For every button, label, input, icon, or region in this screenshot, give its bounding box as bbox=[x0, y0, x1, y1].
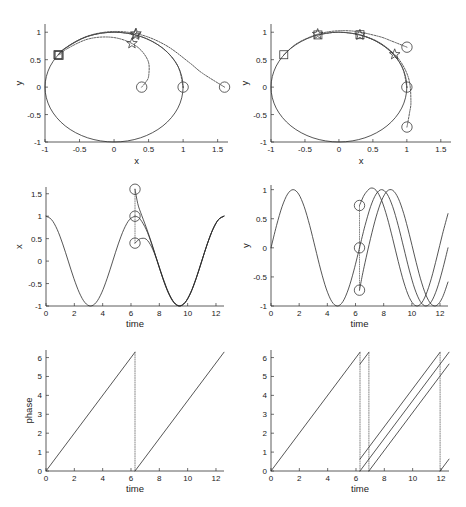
y-axis-label: x bbox=[13, 244, 24, 249]
y-tick-label: 0 bbox=[37, 83, 42, 92]
y-tick-label: 1 bbox=[37, 28, 42, 37]
y-tick-label: -0.5 bbox=[27, 111, 41, 120]
x-tick-label: 6 bbox=[353, 309, 358, 318]
x-tick-label: 2 bbox=[72, 309, 77, 318]
y-tick-label: 0.5 bbox=[31, 235, 43, 244]
y-axis-label: y bbox=[13, 80, 24, 85]
y-tick-label: 3 bbox=[263, 410, 268, 419]
y-tick-label: 0.5 bbox=[30, 56, 42, 65]
y-tick-label: 1.5 bbox=[31, 190, 43, 199]
y-tick-label: 4 bbox=[263, 391, 268, 400]
x-axis-label: time bbox=[351, 483, 369, 494]
x-tick-label: 8 bbox=[157, 309, 162, 318]
y-tick-label: 1 bbox=[263, 448, 268, 457]
x-tick-label: 0 bbox=[44, 309, 49, 318]
x-tick-label: 4 bbox=[100, 474, 105, 483]
x-tick-label: 8 bbox=[382, 474, 387, 483]
x-tick-label: 8 bbox=[157, 474, 162, 483]
x-tick-label: 10 bbox=[407, 309, 416, 318]
x-tick-label: 1.5 bbox=[435, 145, 447, 154]
x-tick-label: 12 bbox=[212, 309, 221, 318]
y-axis-label: y bbox=[240, 243, 251, 248]
x-tick-label: 12 bbox=[436, 309, 445, 318]
x-tick-label: 6 bbox=[129, 474, 134, 483]
y-tick-label: 0 bbox=[263, 83, 268, 92]
x-tick-label: 10 bbox=[183, 474, 192, 483]
x-axis-label: time bbox=[126, 318, 144, 329]
y-tick-label: -1 bbox=[35, 302, 43, 311]
x-tick-label: 12 bbox=[437, 474, 446, 483]
y-tick-label: 5 bbox=[38, 372, 43, 381]
x-tick-label: 2 bbox=[72, 474, 77, 483]
x-tick-label: 2 bbox=[297, 309, 302, 318]
y-tick-label: 0 bbox=[38, 467, 43, 476]
y-tick-label: -0.5 bbox=[253, 273, 267, 282]
x-tick-label: 10 bbox=[183, 309, 192, 318]
y-tick-label: -1 bbox=[260, 302, 268, 311]
x-axis-label: x bbox=[134, 155, 139, 166]
y-tick-label: 1 bbox=[263, 186, 268, 195]
y-tick-label: -1 bbox=[260, 138, 268, 147]
x-tick-label: 1 bbox=[405, 145, 410, 154]
y-tick-label: 0.5 bbox=[256, 215, 268, 224]
y-tick-label: 0 bbox=[38, 257, 43, 266]
y-axis-label: y bbox=[239, 80, 250, 85]
x-tick-label: 8 bbox=[381, 309, 386, 318]
x-axis-label: x bbox=[359, 155, 364, 166]
y-tick-label: 3 bbox=[38, 410, 43, 419]
y-tick-label: 0 bbox=[263, 467, 268, 476]
figure: -1-0.500.511.5-1-0.500.51xy-1-0.500.511.… bbox=[0, 0, 466, 507]
x-tick-label: 0.5 bbox=[143, 145, 155, 154]
y-axis-label: phase bbox=[23, 398, 34, 424]
y-tick-label: 4 bbox=[38, 391, 43, 400]
x-tick-label: 6 bbox=[354, 474, 359, 483]
x-tick-label: 0 bbox=[337, 145, 342, 154]
y-tick-label: -0.5 bbox=[28, 280, 42, 289]
x-tick-label: -0.5 bbox=[298, 145, 312, 154]
x-axis-label: time bbox=[126, 483, 144, 494]
x-tick-label: -1 bbox=[267, 145, 275, 154]
x-tick-label: 4 bbox=[100, 309, 105, 318]
y-tick-label: 5 bbox=[263, 372, 268, 381]
y-tick-label: -1 bbox=[34, 138, 42, 147]
y-tick-label: 1 bbox=[38, 212, 43, 221]
x-tick-label: 1 bbox=[181, 145, 186, 154]
y-tick-label: 2 bbox=[263, 429, 268, 438]
y-tick-label: 0 bbox=[263, 244, 268, 253]
y-tick-label: 6 bbox=[38, 354, 43, 363]
x-tick-label: 10 bbox=[408, 474, 417, 483]
x-tick-label: 1.5 bbox=[212, 145, 224, 154]
x-tick-label: -1 bbox=[41, 145, 49, 154]
x-tick-label: -0.5 bbox=[73, 145, 87, 154]
y-tick-label: -0.5 bbox=[253, 111, 267, 120]
x-tick-label: 0 bbox=[44, 474, 49, 483]
x-tick-label: 6 bbox=[129, 309, 134, 318]
x-tick-label: 0 bbox=[269, 474, 274, 483]
x-tick-label: 4 bbox=[325, 474, 330, 483]
y-tick-label: 1 bbox=[38, 448, 43, 457]
x-tick-label: 2 bbox=[297, 474, 302, 483]
x-tick-label: 4 bbox=[325, 309, 330, 318]
x-tick-label: 0.5 bbox=[367, 145, 379, 154]
x-tick-label: 12 bbox=[212, 474, 221, 483]
y-tick-label: 1 bbox=[263, 28, 268, 37]
x-axis-label: time bbox=[351, 318, 369, 329]
y-tick-label: 6 bbox=[263, 354, 268, 363]
x-tick-label: 0 bbox=[269, 309, 274, 318]
x-tick-label: 0 bbox=[112, 145, 117, 154]
y-tick-label: 2 bbox=[38, 429, 43, 438]
y-tick-label: 0.5 bbox=[256, 56, 268, 65]
